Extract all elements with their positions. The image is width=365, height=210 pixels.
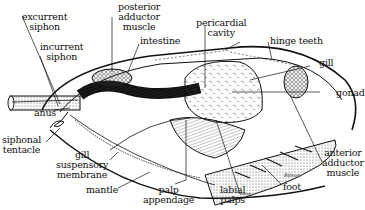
labial-palps-shape (170, 118, 245, 158)
label-gill-suspensory-membrane: gill suspensory membrane (56, 150, 108, 180)
label-anus: anus (34, 108, 56, 118)
artist-signature: Ritson (284, 172, 300, 178)
label-hinge-teeth: hinge teeth (270, 36, 323, 46)
label-anterior-adductor-muscle: anterior adductor muscle (322, 148, 364, 178)
label-pericardial-cavity: pericardial cavity (196, 18, 246, 38)
label-intestine: intestine (140, 36, 180, 46)
label-gonad: gonad (336, 88, 365, 98)
anterior-adductor-shape (284, 66, 308, 98)
label-gill-top: gill (319, 58, 333, 68)
label-mantle: mantle (86, 185, 118, 195)
label-excurrent-siphon: excurrent siphon (22, 12, 67, 32)
label-siphonal-tentacle: siphonal tentacle (2, 135, 41, 155)
label-incurrent-siphon: incurrent siphon (40, 42, 83, 62)
label-foot: foot (283, 182, 301, 192)
label-palp-appendage: palp appendage (143, 185, 194, 205)
label-labial-palps: labial palps (220, 185, 245, 205)
label-posterior-adductor-muscle: posterior adductor muscle (118, 2, 160, 32)
